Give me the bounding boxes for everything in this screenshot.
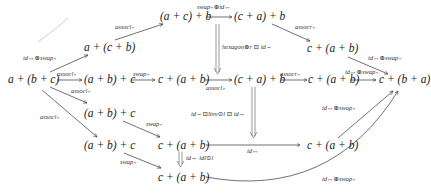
diagram-edges: [0, 0, 431, 195]
label-assocl-under-double: assocl₊: [206, 85, 226, 92]
label-id-idl: id⇔ idl⊙l: [186, 155, 213, 162]
label-swap-low: swap₊: [120, 159, 137, 166]
node-c-plus-ab-bottom: c + (a + b): [158, 172, 209, 184]
node-c-plus-a-plus-b-mid: (c + a) + b: [234, 74, 285, 86]
label-assocr-top: assocr₊: [295, 24, 315, 31]
label-id-swap-right-upper: id↔⊕swap₊: [322, 105, 356, 112]
node-c-plus-ab-right-low: c + (a + b): [307, 140, 358, 152]
label-assocr-mid: assocr₊: [280, 71, 300, 78]
node-ab-plus-c-low2: (a + b) + c: [84, 140, 135, 152]
label-swap-id-top: swap₊⊕id↔: [197, 4, 231, 11]
node-ab-plus-c-low1: (a + b) + c: [84, 108, 135, 120]
label-assocl-main-below: assocl₊: [71, 88, 91, 95]
node-c-plus-ab-top-right: c + (a + b): [307, 43, 358, 55]
node-c-plus-a-plus-b-top: (c + a) + b: [234, 11, 285, 23]
label-id-swap-bottom: id↔⊕swap₊: [322, 176, 356, 183]
label-assocl-main-above: assocl₊: [57, 71, 77, 78]
node-ab-plus-c-main: (a + b) + c: [84, 74, 135, 86]
label-id-swap-top-right: id↔⊕swap₊: [368, 55, 402, 62]
label-id-swap-mid: id↔⊕swap₊: [345, 69, 379, 76]
label-linv: id⇔⊡linv⊙l ⊡ id⇔: [191, 111, 245, 118]
label-id-under-mid: id↔: [247, 148, 259, 155]
label-id-swap-upper-left: id↔⊕swap₊: [23, 55, 57, 62]
label-assocl-diag-left: assocl₊: [40, 114, 60, 121]
label-assocl-top: assocl₊: [115, 24, 135, 31]
node-a-plus-c-plus-b: a + (c + b): [84, 42, 135, 54]
node-c-plus-ab-main: c + (a + b): [158, 74, 209, 86]
label-hexagon: hexagon⊕r ⊡ id⇔: [222, 44, 272, 51]
node-a-plus-c-plus-b-assoc: (a + c) + b: [160, 11, 211, 23]
label-swap-main: swap₊: [133, 71, 150, 78]
node-a-plus-b-plus-c: a + (b + c): [8, 74, 59, 86]
node-c-plus-ba: c + (b + a): [379, 74, 430, 86]
label-swap-mid-lower: swap₊: [146, 121, 163, 128]
node-c-plus-ab-low1: c + (a + b): [158, 140, 209, 152]
node-c-plus-ab-mid2: c + (a + b): [308, 74, 359, 86]
